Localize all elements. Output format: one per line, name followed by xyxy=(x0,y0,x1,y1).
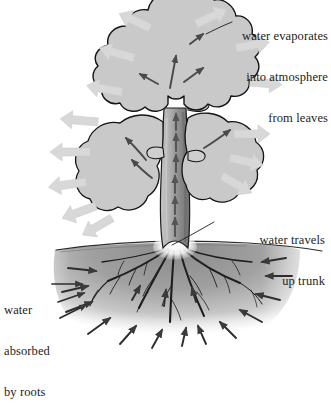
label-water-absorbed-by-roots: water absorbed by roots xyxy=(4,277,50,403)
label-trunk-line2: up trunk xyxy=(259,275,325,289)
label-water-travels-up-trunk: water travels up trunk xyxy=(259,207,325,316)
label-water-evaporates: water evaporates into atmosphere from le… xyxy=(242,3,328,153)
label-evaporation-line3: from leaves xyxy=(242,112,328,126)
label-roots-line2: absorbed xyxy=(4,345,50,359)
label-roots-line3: by roots xyxy=(4,386,50,400)
label-roots-line1: water xyxy=(4,304,50,318)
label-evaporation-line2: into atmosphere xyxy=(242,71,328,85)
label-evaporation-line1: water evaporates xyxy=(242,30,328,44)
label-trunk-line1: water travels xyxy=(259,234,325,248)
